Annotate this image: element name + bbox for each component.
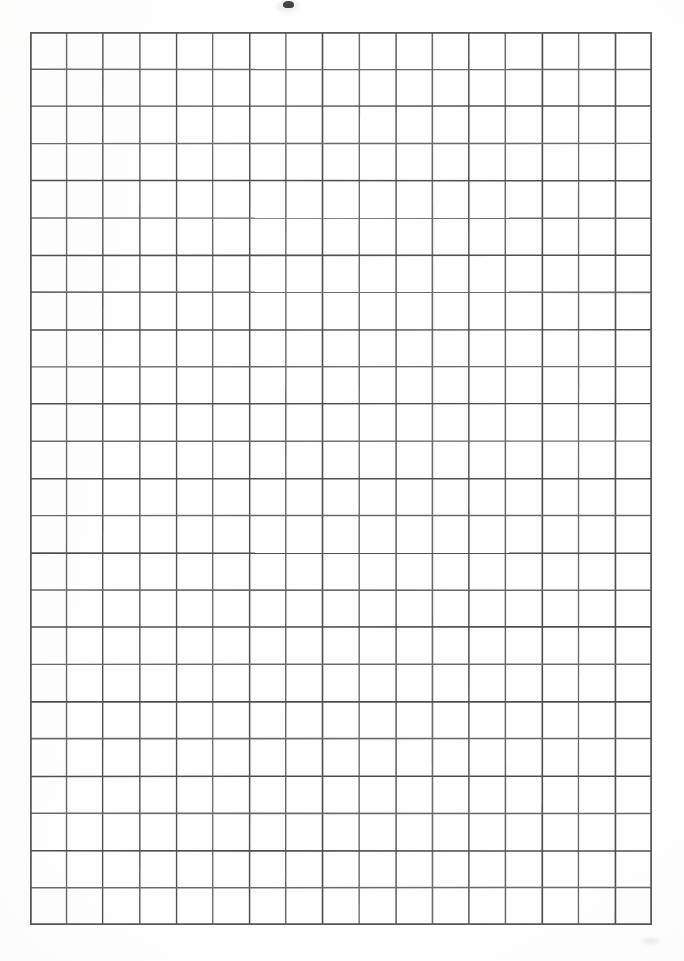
grid-lines xyxy=(30,32,652,925)
scan-speck-icon xyxy=(283,1,294,8)
grid-svg xyxy=(30,32,652,925)
scanned-page xyxy=(0,0,684,961)
grid-paper-ruling xyxy=(30,32,652,925)
corner-smudge-mark xyxy=(640,936,662,946)
